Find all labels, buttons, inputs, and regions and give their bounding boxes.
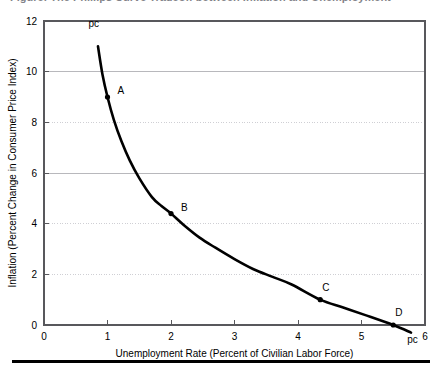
data-point-B <box>168 211 173 216</box>
ytick-label-12: 12 <box>26 16 38 27</box>
xtick-label-5: 5 <box>359 331 365 342</box>
data-point-label-C: C <box>322 282 329 293</box>
data-point-A <box>105 94 110 99</box>
ytick-label-6: 6 <box>31 168 37 179</box>
xtick-label-0: 0 <box>41 331 47 342</box>
ytick-label-10: 10 <box>26 66 38 77</box>
xtick-label-6: 6 <box>422 331 428 342</box>
xtick-label-4: 4 <box>295 331 301 342</box>
phillips-curve-line <box>98 46 411 332</box>
xtick-label-1: 1 <box>105 331 111 342</box>
xtick-label-2: 2 <box>168 331 174 342</box>
data-point-label-B: B <box>181 202 188 213</box>
curve-label-top: pc <box>88 18 99 29</box>
ytick-label-4: 4 <box>31 218 37 229</box>
data-point-C <box>318 297 323 302</box>
data-point-D <box>391 322 396 327</box>
figure-container: Figure: The Phillips Curve Tradeoff betw… <box>0 0 441 371</box>
data-point-label-D: D <box>395 307 402 318</box>
xtick-label-3: 3 <box>232 331 238 342</box>
phillips-curve-chart: 0123456024681012ABCDpcpcUnemployment Rat… <box>0 0 441 371</box>
curve-label-bottom: pc <box>407 334 418 345</box>
y-axis-title: Inflation (Percent Change in Consumer Pr… <box>7 58 18 287</box>
data-point-label-A: A <box>118 85 125 96</box>
x-axis-title: Unemployment Rate (Percent of Civilian L… <box>116 348 354 359</box>
bottom-horizontal-rule <box>12 360 430 363</box>
ytick-label-2: 2 <box>31 269 37 280</box>
ytick-label-0: 0 <box>31 320 37 331</box>
ytick-label-8: 8 <box>31 117 37 128</box>
